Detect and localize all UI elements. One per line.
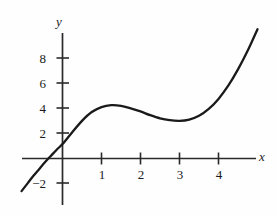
y-tick-label-6: 6 bbox=[32, 77, 46, 90]
y-tick-label-4: 4 bbox=[32, 102, 46, 115]
y-axis-label: y bbox=[56, 15, 62, 28]
x-tick-label-3: 3 bbox=[174, 168, 186, 181]
y-tick-label-8: 8 bbox=[32, 52, 46, 65]
y-tick-label-2: 2 bbox=[32, 127, 46, 140]
x-tick-label-1: 1 bbox=[96, 168, 108, 181]
x-tick-label-2: 2 bbox=[135, 168, 147, 181]
x-tick-label-4: 4 bbox=[213, 168, 225, 181]
y-tick-label-minus-2: −2 bbox=[24, 177, 46, 190]
graph-figure: y x 1 2 3 4 8 6 4 2 −2 bbox=[0, 0, 279, 216]
x-axis-label: x bbox=[259, 150, 265, 163]
